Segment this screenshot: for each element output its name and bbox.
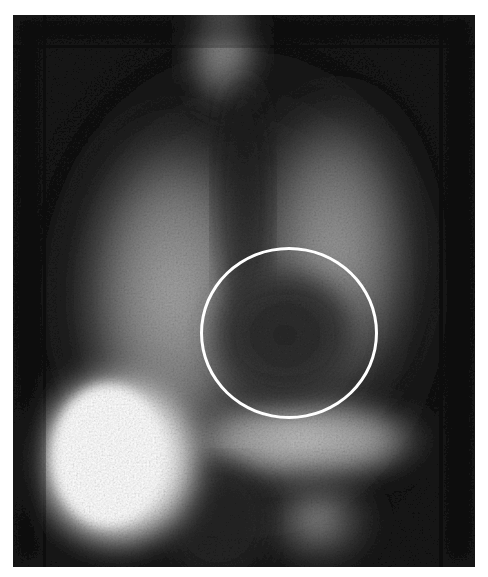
figure-description: Perfusion/uptake scan showing bilateral …	[0, 0, 1, 1]
roi-circle-overlay	[200, 247, 378, 419]
